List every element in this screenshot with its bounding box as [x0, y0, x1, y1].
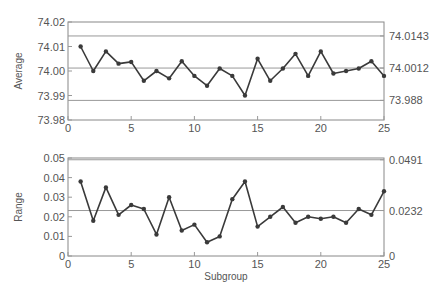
data-point: [331, 215, 335, 219]
data-point: [154, 69, 158, 73]
y-tick-label: 0.02: [44, 211, 65, 223]
data-point: [369, 59, 373, 63]
data-point: [180, 59, 184, 63]
data-point: [293, 52, 297, 56]
data-point: [116, 213, 120, 217]
bottom-lcl-label: 0: [389, 250, 395, 262]
y-tick-label: 74.02: [37, 16, 65, 28]
bottom-x-axis-title: Subgroup: [204, 271, 248, 282]
data-point: [281, 66, 285, 70]
data-point: [382, 189, 386, 193]
data-point: [344, 69, 348, 73]
data-point: [129, 203, 133, 207]
x-tick-label: 25: [378, 122, 390, 134]
y-tick-label: 73.98: [37, 114, 65, 126]
top-cl-label: 74.0012: [389, 62, 429, 74]
y-tick-label: 0.05: [44, 152, 65, 164]
data-point: [369, 213, 373, 217]
y-tick-label: 73.99: [37, 90, 65, 102]
top-plot-frame: [68, 22, 384, 120]
data-point: [205, 84, 209, 88]
data-point: [281, 205, 285, 209]
xbar-chart: 73.9873.9974.0074.0174.02051015202574.01…: [37, 16, 428, 134]
x-tick-label: 10: [188, 122, 200, 134]
data-point: [255, 57, 259, 61]
data-point: [104, 49, 108, 53]
data-point: [91, 219, 95, 223]
data-point: [306, 74, 310, 78]
top-ucl-label: 74.0143: [389, 30, 429, 42]
data-point: [78, 44, 82, 48]
data-point: [167, 195, 171, 199]
data-point: [180, 228, 184, 232]
bottom-ucl-label: 0.0491: [389, 154, 423, 166]
bottom-series-line: [81, 182, 384, 243]
data-point: [230, 197, 234, 201]
x-tick-label: 5: [128, 258, 134, 270]
data-point: [357, 66, 361, 70]
data-point: [293, 220, 297, 224]
x-tick-label: 20: [315, 122, 327, 134]
control-charts-svg: 73.9873.9974.0074.0174.02051015202574.01…: [0, 0, 438, 294]
data-point: [255, 224, 259, 228]
top-series-line: [81, 47, 384, 96]
data-point: [243, 93, 247, 97]
data-point: [230, 74, 234, 78]
data-point: [142, 79, 146, 83]
data-point: [192, 222, 196, 226]
data-point: [154, 232, 158, 236]
data-point: [205, 240, 209, 244]
data-point: [192, 74, 196, 78]
y-tick-label: 74.00: [37, 65, 65, 77]
y-tick-label: 0.03: [44, 191, 65, 203]
data-point: [319, 49, 323, 53]
y-tick-label: 74.01: [37, 41, 65, 53]
x-tick-label: 0: [65, 258, 71, 270]
data-point: [142, 207, 146, 211]
data-point: [319, 217, 323, 221]
data-point: [306, 215, 310, 219]
data-point: [331, 71, 335, 75]
data-point: [104, 185, 108, 189]
data-point: [268, 79, 272, 83]
x-tick-label: 15: [251, 122, 263, 134]
data-point: [382, 74, 386, 78]
bottom-cl-label: 0.0232: [389, 205, 423, 217]
x-tick-label: 15: [251, 258, 263, 270]
data-point: [217, 66, 221, 70]
data-point: [268, 215, 272, 219]
control-charts-figure: 73.9873.9974.0074.0174.02051015202574.01…: [0, 0, 438, 294]
data-point: [116, 61, 120, 65]
x-tick-label: 0: [65, 122, 71, 134]
data-point: [91, 69, 95, 73]
data-point: [78, 179, 82, 183]
range-chart: 00.010.020.030.040.0505101520250.04910.0…: [44, 152, 423, 270]
y-tick-label: 0.01: [44, 230, 65, 242]
data-point: [167, 76, 171, 80]
bottom-y-axis-title: Range: [13, 192, 24, 222]
data-point: [129, 60, 133, 64]
data-point: [217, 234, 221, 238]
top-lcl-label: 73.988: [389, 94, 423, 106]
x-tick-label: 20: [315, 258, 327, 270]
top-y-axis-title: Average: [13, 52, 24, 90]
data-point: [243, 179, 247, 183]
x-tick-label: 10: [188, 258, 200, 270]
x-tick-label: 5: [128, 122, 134, 134]
data-point: [357, 207, 361, 211]
data-point: [344, 220, 348, 224]
y-tick-label: 0.04: [44, 172, 65, 184]
